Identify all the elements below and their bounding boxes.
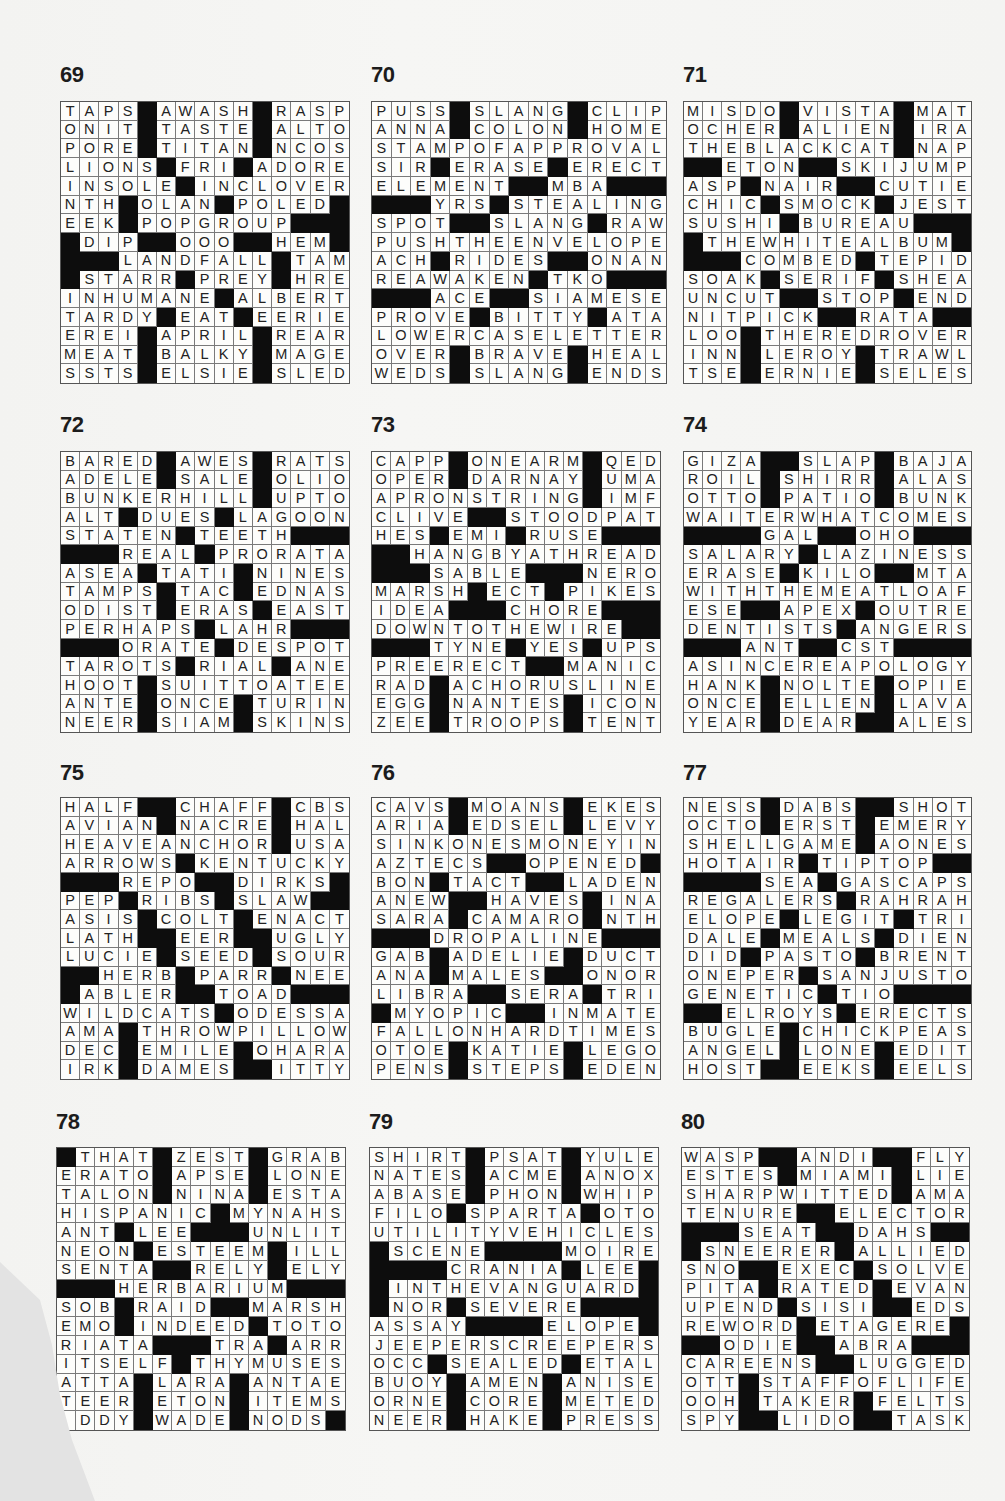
letter-cell: D — [639, 1392, 658, 1411]
letter-cell: L — [646, 346, 666, 365]
letter-cell: S — [529, 289, 549, 308]
letter-cell: T — [684, 139, 703, 158]
letter-cell: E — [138, 489, 157, 508]
black-square — [428, 1355, 447, 1374]
letter-cell: U — [684, 289, 703, 308]
letter-cell: U — [272, 489, 291, 508]
letter-cell: N — [215, 177, 234, 196]
letter-cell: A — [568, 289, 588, 308]
letter-cell: O — [468, 452, 487, 471]
letter-cell: E — [759, 1223, 778, 1242]
letter-cell: C — [215, 817, 234, 836]
letter-cell: H — [211, 1355, 230, 1374]
letter-cell: P — [602, 508, 621, 527]
letter-cell: A — [157, 289, 176, 308]
letter-cell: L — [195, 1042, 214, 1061]
letter-cell: S — [722, 798, 741, 817]
letter-cell: E — [524, 1411, 543, 1430]
letter-cell: A — [952, 452, 971, 471]
letter-cell: A — [80, 798, 99, 817]
letter-cell: O — [449, 835, 468, 854]
black-square — [311, 214, 330, 233]
letter-cell: W — [799, 508, 818, 527]
letter-cell: C — [176, 798, 195, 817]
letter-cell: O — [892, 1261, 911, 1280]
letter-cell: R — [564, 601, 583, 620]
letter-cell: U — [272, 929, 291, 948]
letter-cell: L — [272, 196, 291, 215]
letter-cell: E — [330, 676, 349, 695]
letter-cell: T — [61, 583, 80, 602]
black-square — [372, 1004, 391, 1023]
letter-cell: E — [466, 1280, 485, 1299]
letter-cell: D — [61, 1042, 80, 1061]
black-square — [741, 601, 760, 620]
letter-cell: R — [215, 271, 234, 290]
black-square — [564, 713, 583, 732]
black-square — [894, 102, 913, 121]
letter-cell: A — [741, 452, 760, 471]
letter-cell: S — [119, 910, 138, 929]
letter-cell: S — [545, 695, 564, 714]
letter-cell: S — [545, 713, 564, 732]
letter-cell: E — [914, 1023, 933, 1042]
letter-cell: R — [720, 1355, 739, 1374]
letter-cell: W — [720, 1317, 739, 1336]
letter-cell: A — [780, 527, 799, 546]
letter-cell: S — [641, 1023, 660, 1042]
letter-cell: R — [837, 214, 856, 233]
letter-cell: E — [311, 967, 330, 986]
letter-cell: N — [875, 620, 894, 639]
letter-cell: N — [272, 910, 291, 929]
letter-cell: D — [272, 583, 291, 602]
letter-cell: G — [722, 892, 741, 911]
black-square — [272, 252, 291, 271]
black-square — [138, 346, 157, 365]
letter-cell: E — [564, 854, 583, 873]
letter-cell: U — [682, 1298, 701, 1317]
letter-cell: R — [761, 1004, 780, 1023]
letter-cell: S — [330, 452, 349, 471]
letter-cell: N — [487, 695, 506, 714]
letter-cell: S — [470, 364, 490, 383]
letter-cell: C — [311, 910, 330, 929]
letter-cell: S — [620, 1411, 639, 1430]
letter-cell: E — [914, 620, 933, 639]
letter-cell: V — [914, 327, 933, 346]
black-square — [272, 967, 291, 986]
black-square — [703, 873, 722, 892]
letter-cell: I — [61, 1060, 80, 1079]
letter-cell: M — [449, 967, 468, 986]
letter-cell: A — [543, 1261, 562, 1280]
letter-cell: A — [287, 1204, 306, 1223]
letter-cell: V — [529, 346, 549, 365]
letter-cell: I — [931, 1167, 950, 1186]
black-square — [799, 854, 818, 873]
letter-cell: O — [720, 1261, 739, 1280]
black-square — [875, 452, 894, 471]
letter-cell: S — [837, 158, 856, 177]
letter-cell: S — [372, 139, 392, 158]
letter-cell: S — [176, 620, 195, 639]
black-square — [370, 1242, 389, 1261]
letter-cell: A — [330, 545, 349, 564]
letter-cell: L — [933, 1060, 952, 1079]
letter-cell: E — [157, 364, 176, 383]
letter-cell: O — [99, 158, 118, 177]
letter-cell: N — [607, 364, 627, 383]
black-square — [253, 139, 272, 158]
letter-cell: I — [311, 471, 330, 490]
letter-cell: S — [80, 364, 99, 383]
letter-cell: E — [76, 1261, 95, 1280]
letter-cell: S — [684, 271, 703, 290]
letter-cell: O — [191, 1392, 210, 1411]
letter-cell: S — [389, 1242, 408, 1261]
black-square — [583, 892, 602, 911]
letter-cell: H — [487, 892, 506, 911]
letter-cell: O — [253, 545, 272, 564]
black-square — [410, 639, 429, 658]
letter-cell: S — [952, 1004, 971, 1023]
letter-cell: N — [720, 1204, 739, 1223]
letter-cell: A — [215, 798, 234, 817]
letter-cell: K — [119, 489, 138, 508]
